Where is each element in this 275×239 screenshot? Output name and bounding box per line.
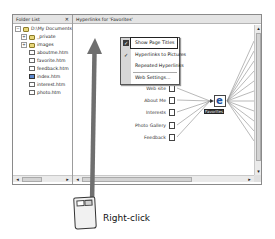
right-mouse-button — [84, 200, 92, 206]
mouse-icon — [73, 196, 97, 229]
right-click-caption: Right-click — [103, 213, 150, 223]
annotation-arrow — [0, 0, 275, 239]
